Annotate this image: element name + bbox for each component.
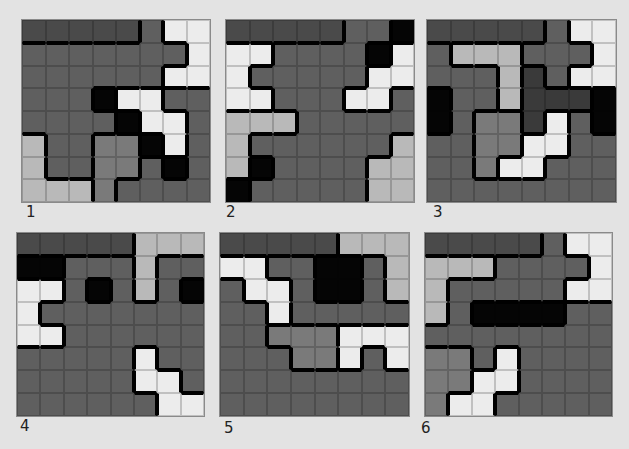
grid-cell	[451, 179, 475, 202]
grid-cell	[220, 279, 244, 302]
grid-cell	[542, 279, 565, 302]
grid-cell	[472, 393, 495, 416]
grid-cell	[291, 347, 315, 370]
grid-cell	[40, 393, 63, 416]
grid-cell	[451, 134, 475, 157]
grid-cell	[315, 302, 339, 325]
grid-cell	[427, 157, 451, 180]
grid-cell	[519, 302, 542, 325]
puzzle-option-6[interactable]	[425, 233, 612, 416]
grid-cell	[425, 233, 448, 256]
grid-cell	[589, 279, 612, 302]
grid-cell	[519, 256, 542, 279]
grid-cell	[291, 279, 315, 302]
grid-cell	[545, 157, 569, 180]
grid-cell	[181, 302, 204, 325]
puzzle-option-3[interactable]	[427, 20, 616, 202]
grid-cell	[344, 20, 368, 43]
grid-cell	[17, 347, 40, 370]
grid-cell	[474, 179, 498, 202]
grid-cell	[320, 157, 344, 180]
grid-cell	[338, 256, 362, 279]
grid-cell	[589, 370, 612, 393]
grid-cell	[592, 157, 616, 180]
grid-cell	[495, 325, 518, 348]
grid-cell	[565, 302, 588, 325]
grid-cell	[472, 279, 495, 302]
puzzle-option-2[interactable]	[226, 20, 414, 202]
puzzle-option-4[interactable]	[17, 233, 204, 416]
grid-cell	[17, 302, 40, 325]
grid-cell	[362, 393, 386, 416]
grid-cell	[134, 302, 157, 325]
grid-cell	[589, 393, 612, 416]
grid-cell	[134, 256, 157, 279]
grid-cell	[565, 347, 588, 370]
grid-cell	[425, 393, 448, 416]
grid-cell	[315, 347, 339, 370]
grid-cell	[385, 347, 409, 370]
grid-cell	[474, 157, 498, 180]
grid-cell	[291, 370, 315, 393]
grid-cell	[93, 66, 117, 89]
grid-cell	[163, 66, 187, 89]
grid-cell	[273, 43, 297, 66]
puzzle-grid	[226, 20, 414, 202]
grid-cell	[545, 179, 569, 202]
grid-cell	[472, 347, 495, 370]
grid-cell	[69, 157, 93, 180]
grid-cell	[163, 157, 187, 180]
grid-cell	[87, 279, 110, 302]
grid-cell	[425, 256, 448, 279]
grid-cell	[134, 279, 157, 302]
grid-cell	[273, 20, 297, 43]
grid-cell	[93, 111, 117, 134]
grid-cell	[320, 111, 344, 134]
grid-cell	[220, 370, 244, 393]
grid-cell	[46, 20, 70, 43]
grid-cell	[116, 20, 140, 43]
grid-cell	[589, 325, 612, 348]
grid-cell	[181, 347, 204, 370]
grid-cell	[244, 370, 268, 393]
grid-cell	[187, 134, 211, 157]
grid-cell	[448, 325, 471, 348]
grid-cell	[565, 256, 588, 279]
grid-cell	[592, 134, 616, 157]
grid-cell	[474, 43, 498, 66]
grid-cell	[451, 43, 475, 66]
grid-cell	[498, 20, 522, 43]
grid-cell	[589, 256, 612, 279]
puzzle-grid	[425, 233, 612, 416]
puzzle-option-1[interactable]	[22, 20, 210, 202]
grid-cell	[592, 43, 616, 66]
grid-cell	[69, 43, 93, 66]
grid-cell	[87, 370, 110, 393]
grid-cell	[367, 157, 391, 180]
grid-cell	[267, 370, 291, 393]
grid-cell	[40, 302, 63, 325]
grid-cell	[495, 393, 518, 416]
grid-cell	[427, 20, 451, 43]
grid-cell	[448, 279, 471, 302]
grid-cell	[565, 393, 588, 416]
grid-cell	[569, 66, 593, 89]
grid-cell	[451, 88, 475, 111]
grid-cell	[472, 325, 495, 348]
grid-cell	[362, 325, 386, 348]
grid-cell	[163, 179, 187, 202]
grid-cell	[69, 66, 93, 89]
grid-cell	[320, 88, 344, 111]
grid-cell	[17, 279, 40, 302]
grid-cell	[565, 279, 588, 302]
grid-cell	[320, 43, 344, 66]
puzzle-option-5[interactable]	[220, 233, 409, 416]
grid-cell	[495, 302, 518, 325]
grid-cell	[569, 134, 593, 157]
grid-cell	[244, 325, 268, 348]
grid-cell	[291, 233, 315, 256]
grid-cell	[522, 88, 546, 111]
grid-cell	[40, 233, 63, 256]
puzzle-label: 6	[421, 419, 431, 437]
grid-cell	[273, 179, 297, 202]
